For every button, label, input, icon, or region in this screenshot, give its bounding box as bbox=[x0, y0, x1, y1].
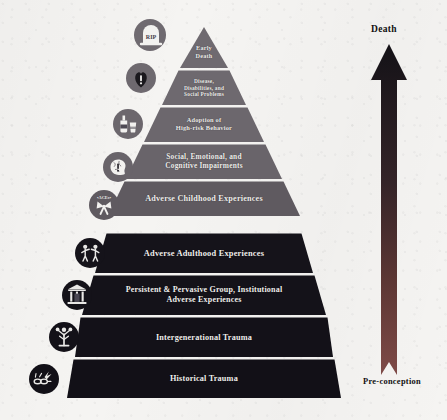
arrow-shape bbox=[371, 44, 407, 375]
arrow-top-label-death: Death bbox=[371, 24, 397, 34]
lifespan-arrow bbox=[0, 0, 447, 420]
aces-historical-trauma-pyramid: Early Death Disease, Disabilities, and S… bbox=[0, 0, 447, 420]
arrow-bottom-label-pre-conception: Pre-conception bbox=[363, 377, 421, 386]
